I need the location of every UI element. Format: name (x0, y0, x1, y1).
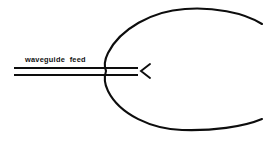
feed-horn-chevron-icon (141, 64, 150, 78)
waveguide-feed-label: waveguide feed (24, 55, 86, 64)
waveguide-feed-reflector-diagram: waveguide feed (0, 0, 270, 142)
diagram-canvas: waveguide feed (0, 0, 270, 142)
parabolic-reflector-curve (105, 9, 262, 131)
